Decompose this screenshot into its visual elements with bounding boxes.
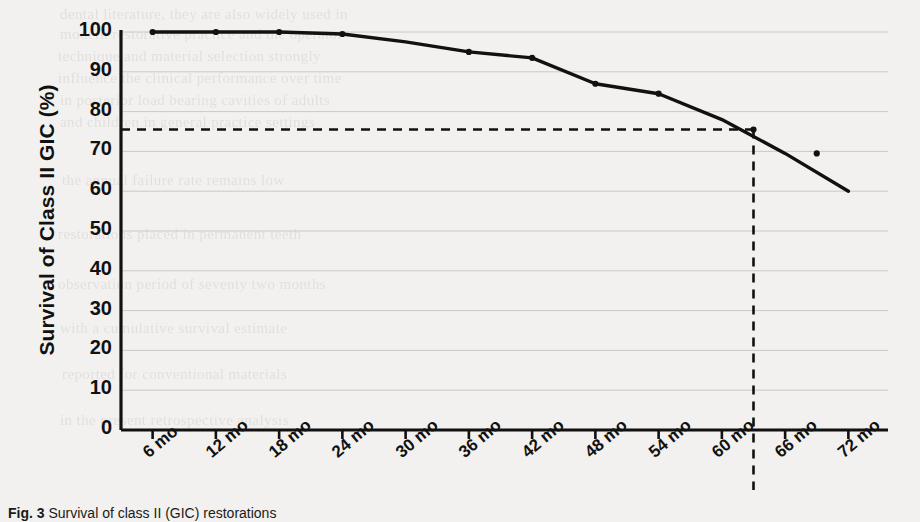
x-axis-tick-label: 42 mo	[518, 415, 568, 462]
x-axis-tick-label: 54 mo	[645, 415, 695, 462]
x-axis-tick-label: 30 mo	[392, 415, 442, 462]
x-axis-tick-label: 18 mo	[265, 415, 315, 462]
x-axis-tick-label: 66 mo	[771, 415, 821, 462]
figure-caption: Fig. 3 Survival of class II (GIC) restor…	[8, 505, 908, 522]
x-axis-tick-label: 24 mo	[328, 415, 378, 462]
x-axis-tick-label: 60 mo	[708, 415, 758, 462]
x-axis-tick-labels: 6 mo12 mo18 mo24 mo30 mo36 mo42 mo48 mo5…	[0, 0, 920, 522]
figure-survival-chart: Survival of Class II GIC (%) 10090807060…	[0, 0, 920, 522]
x-axis-tick-label: 6 mo	[139, 421, 182, 462]
x-axis-tick-label: 72 mo	[834, 415, 884, 462]
x-axis-tick-label: 36 mo	[455, 415, 505, 462]
caption-text: Survival of class II (GIC) restorations	[48, 505, 276, 521]
caption-label: Fig. 3	[8, 505, 45, 521]
x-axis-tick-label: 12 mo	[202, 415, 252, 462]
x-axis-tick-label: 48 mo	[581, 415, 631, 462]
